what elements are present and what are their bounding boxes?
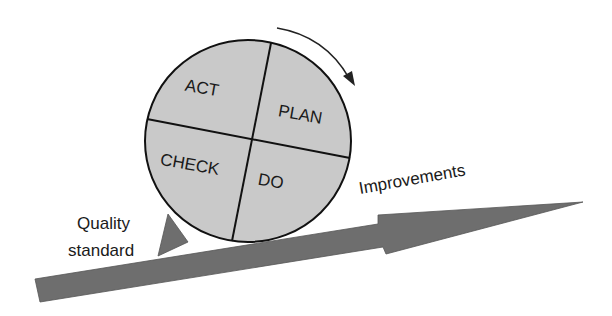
quality-standard-label-line1: Quality [77, 214, 130, 233]
improvements-label: Improvements [357, 161, 466, 198]
pdca-diagram: ACT PLAN CHECK DO Improvements Quality s… [0, 0, 612, 316]
quality-standard-label-line2: standard [68, 241, 134, 260]
pdca-wheel [145, 40, 351, 242]
